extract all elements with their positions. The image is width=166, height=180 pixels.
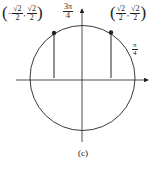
figure-caption: (c) [0,148,166,158]
right-angle-label: π 4 [132,42,138,57]
angle-fraction: 3π 4 [63,3,73,20]
angle-denominator: 4 [66,12,70,20]
angle-fraction: π 4 [132,42,138,57]
y-denominator: 2 [30,14,34,22]
top-angle-label: 3π 4 [63,3,73,20]
y-fraction: √2 2 [27,5,37,22]
close-paren: ) [37,3,43,23]
unit-circle [30,26,135,131]
left-point-label: ( − √2 2 , √2 2 ) [2,3,43,23]
angle-denominator: 4 [133,50,137,57]
y-fraction: √2 2 [130,5,140,22]
comma: , [127,9,129,18]
y-denominator: 2 [133,14,137,22]
x-fraction: √2 2 [116,5,126,22]
x-fraction: √2 2 [12,5,22,22]
comma: , [24,9,26,18]
close-paren: ) [140,3,146,23]
left-point [52,31,56,35]
x-denominator: 2 [119,14,123,22]
x-denominator: 2 [15,14,19,22]
right-point [109,30,113,34]
right-point-label: ( √2 2 , √2 2 ) [110,3,146,23]
